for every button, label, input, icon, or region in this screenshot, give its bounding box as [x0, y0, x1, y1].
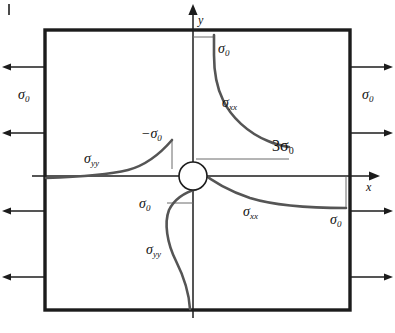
label-sigma0-right-side-sub: 0: [369, 94, 374, 104]
label-sigma-yy-lower-sub: yy: [153, 249, 161, 259]
label-neg-sigma0-sub: 0: [157, 133, 162, 143]
label-sigma-yy-left-sub: yy: [91, 158, 99, 168]
label-sigma0-top-sub: 0: [225, 48, 230, 58]
label-sigma0-lower-right: σ0: [330, 213, 342, 229]
circular-hole: [179, 162, 207, 190]
label-sigma0-left-side-sub: 0: [25, 94, 30, 104]
label-sigma0-top: σ0: [218, 42, 230, 58]
label-sigma0-right-side: σ0: [362, 88, 374, 104]
label-sigma-xx-upper: σxx: [222, 96, 237, 112]
label-sigma-yy-lower: σyy: [146, 243, 161, 259]
label-3sigma0-sub: 0: [289, 145, 294, 156]
label-sigma-xx-lower-sub: xx: [250, 211, 258, 221]
label-sigma0-lower-left-sub: 0: [146, 203, 151, 213]
curve-sigma-yy-left: [46, 140, 172, 178]
label-neg-sigma0: −σ0: [141, 127, 162, 143]
y-axis-label: y: [198, 14, 203, 26]
label-sigma0-left-side: σ0: [18, 88, 30, 104]
figure-canvas: y x σ0 σxx 3σ0 −σ0 σyy σ0 σyy σxx σ0 σ0 …: [0, 0, 395, 333]
label-sigma0-lower-right-sub: 0: [337, 219, 342, 229]
label-sigma-xx-upper-sub: xx: [229, 102, 237, 112]
label-sigma0-lower-left: σ0: [139, 197, 151, 213]
stress-diagram-svg: [0, 0, 395, 333]
x-axis-label: x: [366, 181, 371, 193]
label-sigma-xx-lower: σxx: [243, 205, 258, 221]
label-3sigma0: 3σ0: [272, 138, 294, 156]
label-sigma-yy-left: σyy: [84, 152, 99, 168]
